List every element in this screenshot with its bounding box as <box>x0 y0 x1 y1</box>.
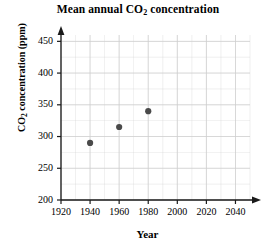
data-point <box>145 108 151 114</box>
grid-major <box>61 35 250 200</box>
y-axis-tick-label: 250 <box>21 162 53 173</box>
data-point <box>116 124 122 130</box>
x-axis-tick-label: 2040 <box>218 206 252 217</box>
y-axis-tick-label: 200 <box>21 194 53 205</box>
chart-figure: Mean annual CO2 concentration CO2 concen… <box>0 0 276 247</box>
axis-ticks <box>57 41 235 204</box>
x-axis-label: Year <box>40 228 255 240</box>
y-axis-tick-label: 400 <box>21 67 53 78</box>
data-point <box>87 140 93 146</box>
axis-lines <box>58 26 261 203</box>
y-axis-tick-label: 450 <box>21 35 53 46</box>
grid-minor <box>61 35 250 200</box>
y-axis-tick-label: 350 <box>21 98 53 109</box>
y-axis-tick-label: 300 <box>21 130 53 141</box>
